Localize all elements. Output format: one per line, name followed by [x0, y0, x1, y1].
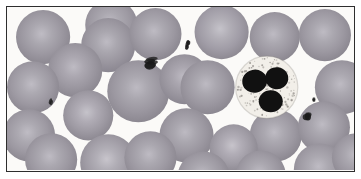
red-blood-cell — [107, 60, 169, 122]
figure-root: Peripheral blood smear — [0, 0, 361, 179]
red-blood-cell — [7, 61, 59, 113]
white-blood-cell-neutrophil — [236, 56, 298, 118]
micrograph-frame — [6, 6, 355, 172]
red-blood-cell — [299, 9, 351, 61]
red-blood-cell — [180, 60, 234, 114]
platelet-fragment — [305, 112, 311, 117]
red-blood-cell — [129, 8, 181, 60]
blood-smear-field — [7, 7, 354, 170]
red-blood-cell — [195, 7, 249, 59]
red-blood-cell — [63, 90, 113, 140]
red-blood-cell — [250, 12, 300, 62]
white-blood-cell-layer — [236, 56, 298, 118]
platelet — [312, 97, 315, 102]
wbc-nucleus-lobe — [259, 90, 283, 112]
platelet-fragment — [312, 98, 315, 101]
